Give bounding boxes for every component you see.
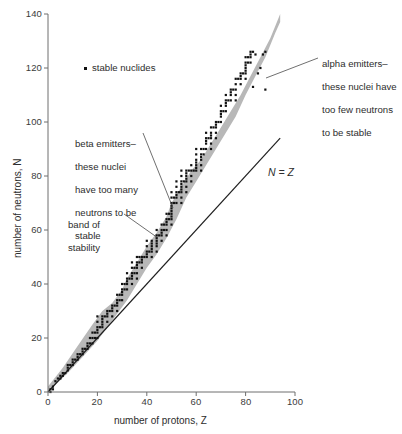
stable-nuclide-point <box>101 326 103 328</box>
stable-nuclide-point <box>175 180 177 182</box>
stable-nuclide-point <box>247 62 249 64</box>
stable-nuclide-point <box>242 72 244 74</box>
stable-nuclide-point <box>116 299 118 301</box>
stable-nuclide-point <box>232 89 234 91</box>
stable-nuclide-point <box>185 170 187 172</box>
stable-nuclide-point <box>190 175 192 177</box>
stable-nuclide-point <box>227 99 229 101</box>
stable-nuclide-point <box>161 224 163 226</box>
annotation-alpha-line-3: too few neutrons <box>322 104 402 116</box>
stable-nuclide-point <box>165 224 167 226</box>
y-tick-label-40: 40 <box>10 278 42 289</box>
stable-nuclide-point <box>165 229 167 231</box>
stable-nuclide-point <box>168 218 170 220</box>
stable-nuclide-point <box>205 132 207 134</box>
stable-nuclide-point <box>163 229 165 231</box>
stable-nuclide-point <box>79 353 81 355</box>
stable-nuclide-point <box>195 164 197 166</box>
stable-nuclide-point <box>131 283 133 285</box>
stable-nuclide-point <box>121 283 123 285</box>
annotation-band-line-1: band of <box>68 219 128 231</box>
stable-nuclide-point <box>109 310 111 312</box>
stable-nuclide-point <box>91 337 93 339</box>
stable-nuclide-point <box>121 291 123 293</box>
stable-nuclide-point <box>131 261 133 263</box>
stable-nuclide-point <box>237 78 239 80</box>
stable-nuclide-point <box>67 367 69 369</box>
x-tick-label-100: 100 <box>283 396 307 407</box>
stable-nuclide-point <box>264 51 266 53</box>
stable-nuclide-point <box>111 310 113 312</box>
stable-nuclide-point <box>249 51 251 53</box>
y-axis-title: number of neutrons, N <box>12 159 23 259</box>
stable-nuclide-point <box>106 313 108 315</box>
stable-nuclide-point <box>245 62 247 64</box>
stable-nuclide-point <box>180 202 182 204</box>
stable-nuclide-point <box>77 359 79 361</box>
stable-nuclide-point <box>151 251 153 253</box>
stable-nuclide-point <box>200 153 202 155</box>
stable-nuclide-point <box>217 121 219 123</box>
stable-nuclide-point <box>106 310 108 312</box>
stable-nuclide-point <box>74 359 76 361</box>
stable-nuclide-point <box>123 283 125 285</box>
stable-nuclide-point <box>101 315 103 317</box>
stable-nuclide-point <box>245 78 247 80</box>
stable-nuclide-point <box>195 167 197 169</box>
stable-nuclide-point <box>52 386 54 388</box>
stable-nuclide-point <box>200 159 202 161</box>
stable-nuclide-point <box>96 329 98 331</box>
stable-nuclide-point <box>59 377 61 379</box>
stable-nuclide-point <box>161 240 163 242</box>
stable-nuclide-point <box>151 245 153 247</box>
stable-nuclide-point <box>205 140 207 142</box>
stable-nuclide-point <box>185 180 187 182</box>
x-tick-label-0: 0 <box>38 396 58 407</box>
stable-nuclide-point <box>96 315 98 317</box>
stable-nuclide-point <box>161 232 163 234</box>
nuclide-stability-chart: 140 120 100 80 60 40 20 0 0 20 40 60 80 … <box>0 0 402 434</box>
stable-nuclide-point <box>91 332 93 334</box>
stable-nuclide-point <box>230 94 232 96</box>
stable-nuclide-point <box>185 175 187 177</box>
stable-nuclide-point <box>190 170 192 172</box>
stable-nuclide-point <box>131 275 133 277</box>
stable-nuclide-point <box>170 197 172 199</box>
y-tick-label-20: 20 <box>10 332 42 343</box>
stable-nuclide-point <box>138 261 140 263</box>
stable-nuclide-point <box>249 56 251 58</box>
stable-nuclide-point <box>188 170 190 172</box>
stable-nuclide-point <box>101 318 103 320</box>
stable-nuclide-point <box>215 124 217 126</box>
stable-nuclide-point <box>240 83 242 85</box>
stable-nuclide-point <box>252 51 254 53</box>
stable-nuclide-point <box>165 213 167 215</box>
stable-nuclide-point <box>91 342 93 344</box>
stable-nuclide-point <box>183 180 185 182</box>
stable-nuclide-point <box>220 113 222 115</box>
stable-nuclide-point <box>215 126 217 128</box>
stable-nuclide-point <box>89 337 91 339</box>
stable-nuclide-point <box>114 305 116 307</box>
stable-nuclide-point <box>203 153 205 155</box>
annotation-band-of-stability: band of stability <box>68 207 128 265</box>
stable-nuclide-point <box>235 94 237 96</box>
stable-nuclide-point <box>49 388 51 390</box>
stable-nuclide-point <box>230 99 232 101</box>
stable-nuclide-point <box>136 264 138 266</box>
annotation-band-line-2: stability <box>68 242 128 254</box>
stable-nuclide-point <box>52 388 54 390</box>
stable-nuclide-point <box>116 310 118 312</box>
stable-nuclide-point <box>175 186 177 188</box>
stable-nuclide-point <box>126 283 128 285</box>
stable-nuclide-point <box>96 332 98 334</box>
stable-nuclide-point <box>180 188 182 190</box>
stable-nuclide-point <box>156 242 158 244</box>
stable-nuclide-point <box>111 307 113 309</box>
stable-nuclide-point <box>84 348 86 350</box>
stable-nuclide-point <box>156 229 158 231</box>
stable-nuclide-point <box>111 305 113 307</box>
stable-nuclide-point <box>203 148 205 150</box>
x-tick-label-40: 40 <box>137 396 157 407</box>
stable-nuclide-point <box>249 53 251 55</box>
